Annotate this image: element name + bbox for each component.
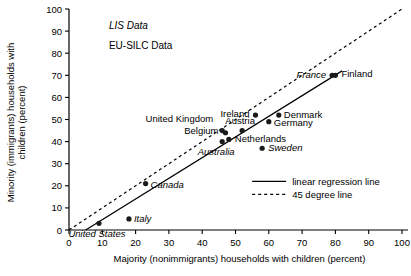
scatter-chart: 0102030405060708090100010203040506070809…	[0, 0, 411, 276]
data-point-label: France	[296, 69, 326, 80]
y-tick-label: 80	[51, 48, 62, 59]
data-point	[333, 73, 338, 78]
y-tick-label: 20	[51, 180, 62, 191]
data-point-label: Canada	[151, 179, 184, 190]
data-point	[253, 112, 258, 117]
y-tick-label: 50	[51, 114, 62, 125]
x-tick-label: 100	[394, 237, 410, 248]
x-tick-label: 70	[297, 237, 308, 248]
legend-label: 45 degree line	[292, 189, 352, 200]
x-tick-label: 60	[264, 237, 275, 248]
data-point	[223, 130, 228, 135]
data-point	[143, 181, 148, 186]
y-tick-label: 90	[51, 26, 62, 37]
data-point	[266, 119, 271, 124]
data-point	[220, 139, 225, 144]
data-point-label: Italy	[134, 213, 153, 224]
data-point	[96, 221, 101, 226]
data-point-label: Belgium	[184, 125, 218, 136]
data-point	[226, 137, 231, 142]
data-point-label: Ireland	[220, 108, 249, 119]
y-tick-label: 70	[51, 70, 62, 81]
y-tick-label: 40	[51, 136, 62, 147]
source-annotation: LIS Data	[109, 20, 148, 31]
data-point-label: Australia	[197, 146, 235, 157]
data-point-label: United Kingdom	[146, 113, 214, 124]
data-point-label: Denmark	[284, 109, 323, 120]
data-point	[126, 216, 131, 221]
y-tick-label: 10	[51, 202, 62, 213]
x-tick-label: 50	[230, 237, 241, 248]
y-axis-title: Minority (immigrants) households withchi…	[5, 43, 27, 202]
data-point	[276, 112, 281, 117]
y-tick-label: 100	[46, 4, 62, 15]
data-point	[260, 146, 265, 151]
x-tick-label: 90	[363, 237, 374, 248]
data-point-label: United States	[68, 228, 125, 239]
data-point-label: Sweden	[268, 142, 302, 153]
x-tick-label: 80	[330, 237, 341, 248]
chart-canvas: 0102030405060708090100010203040506070809…	[0, 0, 411, 276]
data-point-label: Finland	[341, 68, 372, 79]
x-tick-label: 40	[197, 237, 208, 248]
x-axis-title: Majority (nonimmigrants) households with…	[114, 253, 366, 264]
legend-label: linear regression line	[292, 176, 380, 187]
data-point	[240, 128, 245, 133]
y-tick-label: 60	[51, 92, 62, 103]
x-tick-label: 30	[164, 237, 175, 248]
y-tick-label: 0	[57, 225, 62, 236]
source-annotation: EU-SILC Data	[109, 40, 173, 51]
y-tick-label: 30	[51, 158, 62, 169]
x-tick-label: 20	[130, 237, 141, 248]
